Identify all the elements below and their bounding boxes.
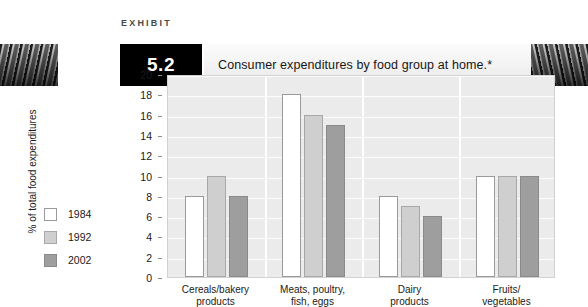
y-axis-tick-mark (158, 237, 162, 238)
x-axis-category-label: Fruits/vegetables (458, 284, 555, 307)
gridline (168, 117, 554, 118)
x-axis-category-line: vegetables (458, 296, 555, 307)
y-axis-tick-6: 6 (146, 212, 152, 222)
bar-2002-4[interactable] (520, 176, 539, 278)
exhibit-header: EXHIBIT 5.2 Consumer expenditures by foo… (0, 18, 588, 70)
legend-swatch-1984 (44, 208, 57, 221)
gridline (168, 96, 554, 97)
y-axis-tick-14: 14 (140, 131, 152, 141)
gridline (168, 157, 554, 158)
bar-1984-3[interactable] (379, 196, 398, 277)
y-axis-tick-2: 2 (146, 253, 152, 263)
x-axis-category-line: products (167, 296, 264, 307)
legend-item-1992[interactable]: 1992 (44, 227, 91, 247)
y-axis-tick-4: 4 (146, 232, 152, 242)
x-axis-category-line: Cereals/bakery (167, 284, 264, 296)
legend-swatch-1992 (44, 231, 57, 244)
y-axis-tick-mark (158, 217, 162, 218)
bar-1992-1[interactable] (207, 176, 226, 278)
y-axis-tick-0: 0 (146, 273, 152, 283)
y-axis-tick-mark (158, 156, 162, 157)
legend-item-2002[interactable]: 2002 (44, 250, 91, 270)
group-separator (459, 76, 461, 277)
bar-1984-2[interactable] (282, 94, 301, 277)
y-axis-tick-mark (158, 95, 162, 96)
group-separator (265, 76, 267, 277)
legend-label-1992: 1992 (68, 231, 91, 243)
x-axis-category-label: Cereals/bakeryproducts (167, 284, 264, 307)
y-axis-tick-mark (158, 136, 162, 137)
y-axis-tick-12: 12 (140, 151, 152, 161)
exhibit-label: EXHIBIT (121, 18, 172, 28)
x-axis-category-line: fish, eggs (264, 296, 361, 307)
y-axis-tick-mark (158, 278, 162, 279)
x-axis-category-line: products (361, 296, 458, 307)
legend-swatch-2002 (44, 254, 57, 267)
legend-label-1984: 1984 (68, 208, 91, 220)
gridline (168, 137, 554, 138)
y-axis-tick-8: 8 (146, 192, 152, 202)
bar-1984-1[interactable] (185, 196, 204, 277)
bar-2002-3[interactable] (423, 216, 442, 277)
bar-1992-2[interactable] (304, 115, 323, 277)
y-axis-tick-10: 10 (140, 172, 152, 182)
y-axis-tick-20: 20 (140, 70, 152, 80)
bar-chart: % of total food expenditures 20181614121… (0, 70, 588, 307)
plot-area (167, 75, 555, 278)
x-axis-category-label: Meats, poultry,fish, eggs (264, 284, 361, 307)
bar-1984-4[interactable] (476, 176, 495, 278)
bar-2002-2[interactable] (326, 125, 345, 277)
y-axis-tick-mark (158, 197, 162, 198)
bar-1992-4[interactable] (498, 176, 517, 278)
x-axis-category-line: Dairy (361, 284, 458, 296)
y-axis-title: % of total food expenditures (27, 77, 38, 267)
x-axis-category-line: Meats, poultry, (264, 284, 361, 296)
y-axis-tick-mark (158, 116, 162, 117)
y-axis-tick-labels: 20181614121086420 (126, 70, 152, 282)
legend-item-1984[interactable]: 1984 (44, 204, 91, 224)
y-axis-tick-16: 16 (140, 111, 152, 121)
group-separator (362, 76, 364, 277)
gridline (168, 76, 554, 77)
x-axis-category-line: Fruits/ (458, 284, 555, 296)
y-axis-tick-18: 18 (140, 90, 152, 100)
y-axis-tick-mark (158, 177, 162, 178)
bar-2002-1[interactable] (229, 196, 248, 277)
y-axis-tick-mark (158, 75, 162, 76)
legend-label-2002: 2002 (68, 254, 91, 266)
bar-1992-3[interactable] (401, 206, 420, 277)
y-axis-tick-mark (158, 258, 162, 259)
x-axis-category-label: Dairyproducts (361, 284, 458, 307)
chart-legend: 198419922002 (44, 204, 91, 273)
